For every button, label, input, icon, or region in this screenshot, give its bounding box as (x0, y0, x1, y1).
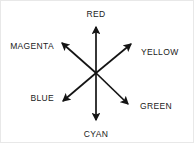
color-vector-diagram: RED YELLOW GREEN CYAN BLUE MAGENTA (0, 0, 194, 143)
arrow-line-green (96, 73, 128, 104)
diagram-canvas: RED YELLOW GREEN CYAN BLUE MAGENTA (1, 1, 194, 143)
arrow-line-yellow (96, 44, 131, 73)
arrow-lines (62, 27, 131, 120)
label-cyan: CYAN (84, 129, 108, 139)
label-yellow: YELLOW (141, 47, 179, 57)
label-magenta: MAGENTA (10, 41, 54, 51)
label-green: GREEN (140, 101, 172, 111)
label-blue: BLUE (30, 93, 54, 103)
arrow-line-blue (63, 73, 96, 101)
label-red: RED (87, 9, 106, 19)
arrow-line-magenta (62, 43, 96, 73)
